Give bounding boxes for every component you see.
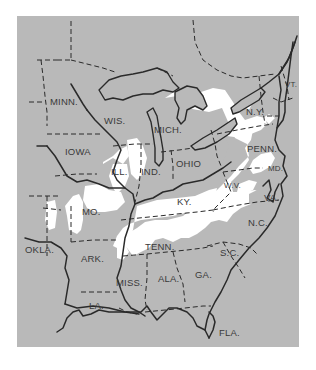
state-label-wis: WIS. [104,115,125,126]
state-label-tenn: TENN. [145,241,175,252]
map-frame: MINN. WIS. MICH. N.Y. VT. IOWA ILL. IND.… [17,16,299,347]
bottom-margin [0,350,316,370]
map-graphic [17,16,299,347]
state-label-sc: S.C. [220,247,239,258]
state-label-wv: W.V. [224,181,241,190]
state-label-ill: ILL. [111,166,128,177]
state-label-vt: VT. [285,80,297,89]
state-label-va: VA. [264,192,279,203]
state-label-ohio: OHIO [176,158,201,169]
state-label-penn: PENN. [247,143,277,154]
state-label-ind: IND. [141,166,161,177]
state-label-ky: KY. [177,196,192,207]
state-label-fla: FLA. [219,327,240,338]
state-label-ny: N.Y. [246,106,264,117]
state-label-minn: MINN. [50,96,78,107]
state-label-nc: N.C. [248,217,268,228]
state-label-iowa: IOWA [65,146,91,157]
state-label-mo: MO. [82,206,101,217]
state-label-ark: ARK. [81,253,104,264]
state-label-ga: GA. [195,269,212,280]
state-label-miss: MISS. [116,277,143,288]
state-label-la: LA. [89,300,104,311]
state-label-okla: OKLA. [25,244,54,255]
state-label-mich: MICH. [154,124,182,135]
state-label-md: MD. [268,164,283,173]
state-label-ala: ALA. [158,273,179,284]
